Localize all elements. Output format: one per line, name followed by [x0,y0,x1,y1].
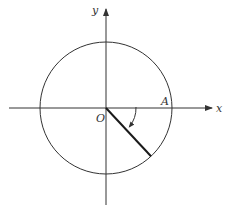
y-axis-label: y [91,4,99,17]
terminal-ray [106,108,151,156]
origin-label: O [96,112,105,125]
x-axis-label: x [216,102,223,115]
angle-arc-arrow [129,107,136,127]
unit-circle-diagram: x y O A [0,0,230,212]
point-a-label: A [160,95,169,108]
